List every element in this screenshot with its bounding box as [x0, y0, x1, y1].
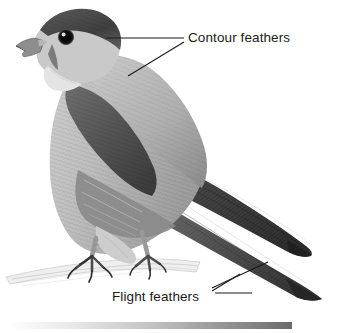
- figure-container: Contour feathers Flight feathers: [0, 0, 352, 333]
- bottom-gradient-bar: [0, 0, 352, 333]
